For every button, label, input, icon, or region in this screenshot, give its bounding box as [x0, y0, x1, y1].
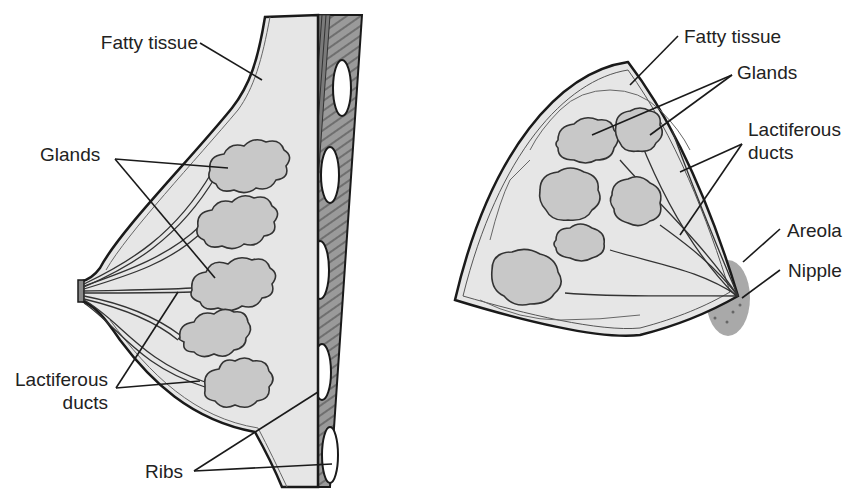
label-lactiferous-front-1: Lactiferous	[748, 119, 841, 141]
label-fatty-tissue-side: Fatty tissue	[60, 32, 198, 54]
label-glands-front: Glands	[737, 62, 797, 84]
front-view-panel	[455, 36, 780, 336]
breast-outline-side	[80, 15, 318, 487]
label-fatty-tissue-front: Fatty tissue	[684, 26, 781, 48]
label-areola: Areola	[787, 220, 842, 242]
label-lactiferous-side-2: ducts	[0, 392, 108, 414]
diagram-canvas	[0, 0, 849, 495]
anatomy-diagram: Fatty tissue Glands Lactiferous ducts Ri…	[0, 0, 849, 495]
label-lactiferous-front-2: ducts	[748, 142, 793, 164]
label-ribs: Ribs	[145, 461, 183, 483]
nipple-side	[78, 280, 84, 302]
label-lactiferous-side-1: Lactiferous	[0, 369, 108, 391]
side-view-panel	[78, 15, 362, 487]
label-nipple: Nipple	[788, 260, 842, 282]
label-glands-side: Glands	[40, 144, 100, 166]
